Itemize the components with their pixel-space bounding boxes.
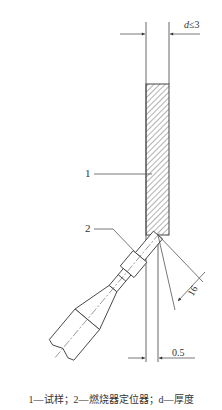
leader-line-2 (94, 229, 137, 254)
burner-locator (43, 223, 172, 368)
burner-specimen-diagram (0, 0, 222, 410)
burner-label: 2 (85, 223, 91, 234)
distance-dimension (158, 235, 205, 310)
thickness-value: ≤3 (189, 19, 200, 30)
specimen (146, 84, 169, 235)
specimen-label: 1 (85, 168, 91, 179)
offset-label: 0.5 (172, 348, 185, 358)
figure-caption: 1—试样；2—燃烧器定位器；d—厚度 (0, 391, 222, 406)
thickness-label: d≤3 (184, 20, 200, 30)
